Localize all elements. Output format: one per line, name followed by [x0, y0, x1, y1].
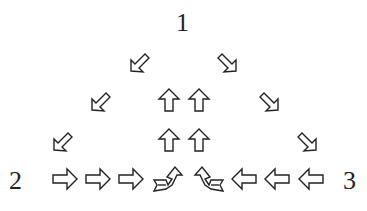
arrow-right-icon — [118, 167, 144, 191]
arrow-down-right-icon — [256, 89, 280, 113]
arrow-down-right-icon — [294, 129, 318, 153]
node-1-label: 1 — [176, 10, 189, 36]
arrow-left-icon — [298, 167, 324, 191]
arrow-up-icon — [187, 88, 211, 112]
arrow-up-icon — [157, 88, 181, 112]
arrow-up-icon — [157, 128, 181, 152]
arrow-down-left-icon — [129, 50, 153, 74]
merge-arrow-right-up-icon — [152, 165, 184, 193]
arrow-left-icon — [231, 167, 257, 191]
arrow-left-icon — [264, 167, 290, 191]
arrow-up-icon — [187, 128, 211, 152]
node-2-label: 2 — [9, 168, 22, 194]
arrow-right-icon — [52, 167, 78, 191]
merge-arrow-left-up-icon — [193, 165, 225, 193]
arrow-right-icon — [85, 167, 111, 191]
arrow-down-left-icon — [52, 129, 76, 153]
arrow-down-right-icon — [214, 50, 238, 74]
node-3-label: 3 — [343, 168, 356, 194]
arrow-down-left-icon — [90, 89, 114, 113]
